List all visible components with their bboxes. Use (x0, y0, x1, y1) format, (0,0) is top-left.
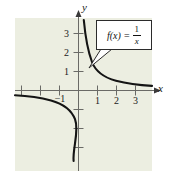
fraction-numerator: 1 (133, 25, 142, 35)
formula-equals-sign: = (123, 30, 131, 41)
formula-function-name: f(x) (107, 30, 121, 41)
x-axis (15, 88, 161, 94)
x-tick-label-3: 3 (130, 96, 141, 106)
y-axis-label: y (82, 2, 87, 13)
function-formula: f(x) = 1 x (97, 21, 151, 49)
y-tick-label-2: 2 (62, 48, 71, 58)
formula-fraction: 1 x (133, 25, 142, 46)
x-tick-label-1: 1 (92, 96, 103, 106)
function-callout-box: f(x) = 1 x (96, 20, 152, 50)
x-tick-label-neg1: −1 (53, 94, 67, 104)
y-tick-label-1: 1 (62, 67, 71, 77)
callout-pointer (89, 49, 112, 68)
y-tick-label-3: 3 (62, 29, 71, 39)
x-axis-label: x (158, 83, 163, 94)
curve-branch-negative (15, 95, 77, 161)
fraction-denominator: x (133, 36, 141, 46)
function-graph-figure: y x −1 1 2 3 1 2 3 f(x) = 1 x (0, 0, 169, 171)
x-tick-label-2: 2 (111, 96, 122, 106)
